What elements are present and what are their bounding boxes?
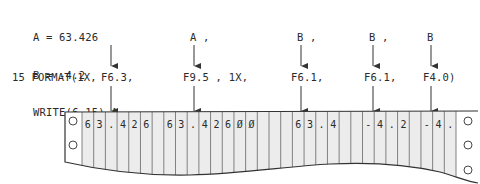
- printout-cell: .: [444, 119, 456, 130]
- sprocket-hole-icon: [464, 117, 472, 125]
- printout-cell: 6: [292, 119, 304, 130]
- sprocket-hole-icon: [69, 117, 77, 125]
- printout-cell: -: [421, 119, 433, 130]
- printout-cell: 4: [327, 119, 339, 130]
- diagram-graphics: [0, 0, 480, 184]
- printout-cell: .: [316, 119, 328, 130]
- printout-cell: 6: [164, 119, 176, 130]
- printout-cell: 3: [304, 119, 316, 130]
- printout-cell: 4: [117, 119, 129, 130]
- printout-cell: 4: [374, 119, 386, 130]
- sprocket-hole-icon: [464, 141, 472, 149]
- printout-cell: Ø: [234, 119, 246, 130]
- printout-cell: 6: [140, 119, 152, 130]
- printout-cell: .: [105, 119, 117, 130]
- arrows-vars-to-format: [111, 45, 431, 66]
- printout-cell: 6: [82, 119, 94, 130]
- printout-cell: -: [363, 119, 375, 130]
- printout-cell: 4: [433, 119, 445, 130]
- printout-cell: 3: [94, 119, 106, 130]
- printout-cell: 2: [129, 119, 141, 130]
- printout-cell: 2: [211, 119, 223, 130]
- arrows-format-to-paper: [111, 86, 431, 111]
- printout-cell: Ø: [246, 119, 258, 130]
- printout-cell: 6: [222, 119, 234, 130]
- printout-cell: .: [187, 119, 199, 130]
- printout-cell: 3: [176, 119, 188, 130]
- printout-cell: .: [386, 119, 398, 130]
- printout-cell: 2: [398, 119, 410, 130]
- sprocket-hole-icon: [69, 141, 77, 149]
- printout-cell: 4: [199, 119, 211, 130]
- sprocket-hole-icon: [464, 166, 472, 174]
